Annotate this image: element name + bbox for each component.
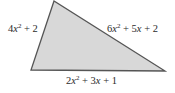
bottom-rest2: + 1: [103, 75, 117, 86]
left-exp: 2: [18, 22, 22, 30]
right-rest2: + 2: [144, 23, 158, 34]
bottom-rest1: + 3: [82, 75, 96, 86]
left-side-label: 4x2 + 2: [8, 24, 38, 35]
right-rest1: + 5: [123, 23, 137, 34]
bottom-var2: x: [96, 75, 101, 86]
left-rest: + 2: [24, 23, 38, 34]
bottom-side-label: 2x2 + 3x + 1: [66, 76, 117, 87]
right-exp: 2: [117, 22, 121, 30]
right-var2: x: [137, 23, 142, 34]
right-side-label: 6x2 + 5x + 2: [107, 24, 158, 35]
bottom-exp: 2: [76, 74, 80, 82]
triangle-diagram: 4x2 + 2 6x2 + 5x + 2 2x2 + 3x + 1: [0, 0, 175, 93]
